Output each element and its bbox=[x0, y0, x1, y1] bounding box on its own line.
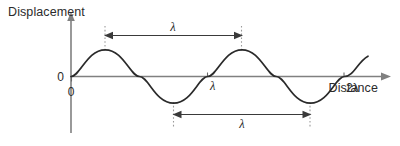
x-axis-title-label: Distance bbox=[329, 81, 378, 95]
lambda-label-bottom: λ bbox=[238, 117, 245, 131]
y-axis-title-label: Displacement bbox=[8, 5, 85, 19]
labels-group: Displacement 0 0 λ 2λ Distance bbox=[8, 5, 378, 99]
wave-diagram-canvas: λ λ Displacement 0 0 λ 2λ Distance bbox=[0, 0, 400, 146]
measure-lambda-top: λ bbox=[104, 20, 243, 39]
x-axis-arrowhead-icon bbox=[381, 73, 391, 81]
y-origin-zero-label: 0 bbox=[57, 70, 64, 84]
lambda-label-top: λ bbox=[169, 20, 176, 34]
measure-arrowhead-right-bottom-icon bbox=[303, 111, 312, 118]
measure-arrowhead-left-bottom-icon bbox=[173, 111, 182, 118]
wave-diagram-figure: λ λ Displacement 0 0 λ 2λ Distance bbox=[0, 0, 400, 146]
measure-lambda-bottom: λ bbox=[173, 111, 312, 131]
x-origin-zero-label: 0 bbox=[68, 85, 75, 99]
lambda-label-axis: λ bbox=[209, 79, 216, 93]
